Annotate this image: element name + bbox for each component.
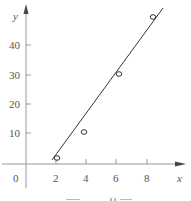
data-point bbox=[116, 72, 122, 77]
y-tick-label: 20 bbox=[9, 98, 21, 110]
scatter-plot-with-fit-line: 10 20 30 40 0 2 4 6 8 x y bbox=[0, 0, 191, 201]
x-axis-arrow-icon bbox=[175, 162, 186, 167]
y-ticks bbox=[26, 45, 31, 133]
x-tick-label: 8 bbox=[144, 172, 150, 184]
x-ticks bbox=[56, 159, 147, 164]
fit-line bbox=[52, 8, 163, 160]
data-point bbox=[81, 130, 87, 135]
x-tick-label: 2 bbox=[53, 172, 59, 184]
caption-truncated bbox=[66, 198, 132, 201]
y-axis-arrow-icon bbox=[24, 4, 29, 14]
y-axis-label: y bbox=[12, 10, 18, 22]
y-tick-label: 10 bbox=[9, 127, 21, 139]
y-tick-label: 30 bbox=[9, 69, 21, 81]
x-tick-label: 6 bbox=[113, 172, 119, 184]
origin-label: 0 bbox=[13, 172, 19, 184]
data-point bbox=[150, 15, 156, 20]
x-tick-label: 4 bbox=[83, 172, 89, 184]
x-axis-label: x bbox=[176, 172, 182, 184]
y-tick-label: 40 bbox=[9, 39, 21, 51]
data-point bbox=[54, 156, 60, 161]
